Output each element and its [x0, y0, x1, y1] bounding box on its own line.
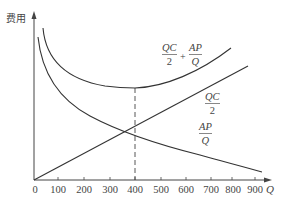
fraction-bar: [199, 133, 212, 134]
x-tick-label: 700: [203, 184, 219, 195]
fraction-bar: [205, 103, 220, 104]
label-ordering-den: Q: [202, 135, 210, 146]
x-axis-label: Q: [266, 183, 274, 195]
x-tick-label: 0: [32, 184, 37, 195]
x-axis-arrow-icon: [264, 178, 272, 183]
series-total-cost-curve: [43, 28, 231, 88]
label-total-plus: +: [180, 51, 186, 62]
label-total-den1: 2: [167, 56, 172, 67]
label-total-part2: AP Q: [189, 42, 202, 67]
x-tick-label: 300: [102, 184, 118, 195]
label-total-part1: QC 2: [162, 42, 177, 67]
x-tick-label: 400: [127, 184, 143, 195]
series-ordering-cost-curve: [38, 37, 262, 172]
x-tick-label: 600: [178, 184, 194, 195]
fraction-bar: [162, 54, 177, 55]
x-tick-label: 900: [247, 184, 263, 195]
y-axis-label: 费用: [6, 10, 26, 25]
label-ordering: AP Q: [199, 121, 212, 146]
label-total-num2: AP: [189, 42, 202, 53]
x-tick-label: 500: [153, 184, 169, 195]
label-total-den2: Q: [192, 56, 200, 67]
chart-canvas: [0, 0, 285, 204]
x-tick-label: 200: [76, 184, 92, 195]
label-holding-num: QC: [205, 91, 220, 102]
label-holding-den: 2: [210, 105, 215, 116]
series-holding-cost-line: [34, 66, 248, 180]
x-tick-label: 100: [50, 184, 66, 195]
label-holding: QC 2: [205, 91, 220, 116]
fraction-bar: [189, 54, 202, 55]
label-total-num1: QC: [162, 42, 177, 53]
x-tick-label: 800: [225, 184, 241, 195]
label-ordering-num: AP: [199, 121, 212, 132]
y-axis-arrow-icon: [32, 11, 37, 19]
